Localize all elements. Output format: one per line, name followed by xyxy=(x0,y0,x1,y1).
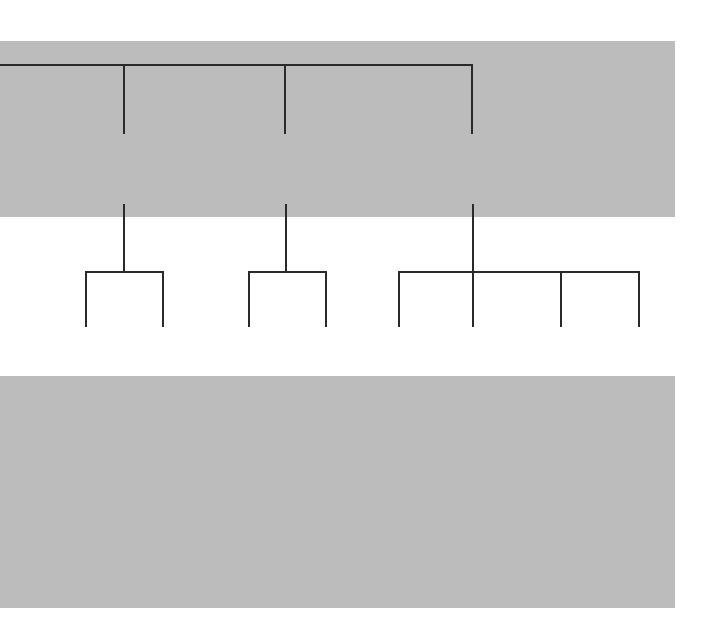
band-level3 xyxy=(0,376,675,608)
band-level1 xyxy=(0,41,675,217)
